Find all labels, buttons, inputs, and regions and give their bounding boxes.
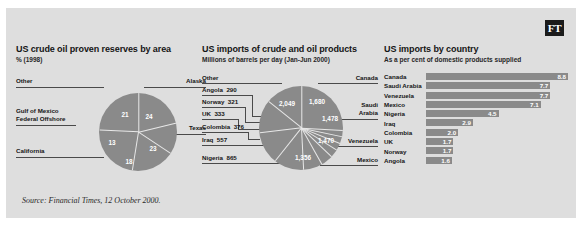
chart2-callout-mexico: Mexico xyxy=(357,156,378,163)
chart2-callout-colombia-label: Colombia xyxy=(202,123,230,130)
bar-track-saudi-arabia: 7.7 xyxy=(426,81,568,90)
chart2-value-venezuela: 1,470 xyxy=(318,137,334,144)
chart2-subtitle: Millions of barrels per day (Jan-Jun 200… xyxy=(202,56,378,63)
bar-value-nigeria: 4.5 xyxy=(488,110,499,117)
bar-track-nigeria: 4.5 xyxy=(426,109,568,118)
chart3-subtitle: As a per cent of domestic products suppl… xyxy=(384,56,568,63)
chart2-callout-canada: Canada xyxy=(356,74,378,81)
bar-value-uk: 1.7 xyxy=(443,138,454,145)
chart2-slice-divider-canada-start xyxy=(301,86,302,128)
bar-value-angola: 1.6 xyxy=(441,157,452,164)
chart1-callout-rule-gulf xyxy=(16,125,76,126)
chart2-callout-nigeria: Nigeria 865 xyxy=(202,154,237,161)
bar-label-nigeria: Nigeria xyxy=(384,110,426,117)
bar-track-canada: 8.8 xyxy=(426,72,568,81)
chart1-value-texas: 23 xyxy=(149,145,156,152)
bar-value-canada: 8.8 xyxy=(557,73,568,80)
bar-value-venezuela: 7.7 xyxy=(540,92,551,99)
chart2-callout-iraq-value: 557 xyxy=(217,136,227,143)
chart1-value-california: 18 xyxy=(125,158,132,165)
bar-track-norway: 1.7 xyxy=(426,146,568,155)
chart2-callout-other: Other xyxy=(202,74,219,81)
ft-logo: FT xyxy=(545,20,564,36)
bar-norway: 1.7 xyxy=(426,147,453,154)
chart2-title: US imports of crude and oil products xyxy=(202,44,378,54)
chart2-callout-norway: Norway 321 xyxy=(202,98,238,105)
bar-uk: 1.7 xyxy=(426,138,453,145)
chart2-callout-angola-label: Angola xyxy=(202,86,223,93)
chart1-callout-other: Other xyxy=(16,77,33,84)
chart2-callout-elbow-norway xyxy=(245,107,246,122)
bar-colombia: 2.0 xyxy=(426,129,458,136)
bar-track-venezuela: 7.7 xyxy=(426,91,568,100)
bar-mexico: 7.1 xyxy=(426,101,541,108)
chart1-slice-divider-1 xyxy=(100,130,139,133)
chart2-callout-uk: UK 333 xyxy=(202,110,225,117)
chart2-callout-elbow-colombia xyxy=(248,132,249,139)
chart1-value-other: 21 xyxy=(121,111,128,118)
chart1-title: US crude oil proven reserves by area xyxy=(16,44,206,54)
chart2-callout-rule-other xyxy=(202,83,282,84)
chart1-callout-rule-alaska xyxy=(144,87,206,88)
chart2-callout-elbow-angola xyxy=(252,95,253,116)
chart2-callout-saudi-line2: Arabia xyxy=(359,109,378,116)
chart2-callout-nigeria-label: Nigeria xyxy=(202,154,223,161)
chart1-slice-divider-2 xyxy=(132,132,139,171)
bar-label-mexico: Mexico xyxy=(384,101,426,108)
bar-row: UK 1.7 xyxy=(384,137,568,146)
chart2-callout-venezuela: Venezuela xyxy=(348,137,378,144)
chart2-callout-uk-label: UK xyxy=(202,110,211,117)
chart2-callout-iraq: Iraq 557 xyxy=(202,136,227,143)
bar-row: Mexico 7.1 xyxy=(384,100,568,109)
bar-label-uk: UK xyxy=(384,138,426,145)
chart-panel-crude-oil-reserves: US crude oil proven reserves by area % (… xyxy=(16,44,206,184)
bar-iraq: 2.9 xyxy=(426,119,473,126)
chart2-value-canada: 1,680 xyxy=(309,98,325,105)
bar-value-iraq: 2.9 xyxy=(462,119,473,126)
bar-label-iraq: Iraq xyxy=(384,120,426,127)
bar-label-colombia: Colombia xyxy=(384,129,426,136)
chart1-callout-gulf-line1: Gulf of Mexico xyxy=(16,107,59,114)
chart3-title: US imports by country xyxy=(384,44,568,54)
chart2-callout-rule-colombia xyxy=(202,132,248,133)
chart2-value-saudi: 1,478 xyxy=(322,115,338,122)
chart1-slice-divider-0 xyxy=(138,93,139,132)
bar-canada: 8.8 xyxy=(426,73,568,80)
chart1-callout-california: California xyxy=(16,147,45,154)
bar-value-saudi-arabia: 7.7 xyxy=(540,82,551,89)
bar-track-angola: 1.6 xyxy=(426,156,568,165)
bar-label-venezuela: Venezuela xyxy=(384,92,426,99)
bar-value-mexico: 7.1 xyxy=(530,101,541,108)
bar-saudi-arabia: 7.7 xyxy=(426,82,550,89)
chart1-callout-rule-california xyxy=(16,157,104,158)
chart-panel-imports-by-country: US imports by country As a per cent of d… xyxy=(384,44,568,184)
chart2-callout-rule-nigeria xyxy=(202,163,280,164)
bar-row: Angola 1.6 xyxy=(384,156,568,165)
bar-label-angola: Angola xyxy=(384,157,426,164)
bar-label-canada: Canada xyxy=(384,73,426,80)
chart2-callout-colombia: Colombia 376 xyxy=(202,123,244,130)
chart2-callout-rule-norway xyxy=(202,107,245,108)
chart2-value-mexico: 1,356 xyxy=(295,154,311,161)
chart2-callout-angola-value: 290 xyxy=(226,86,236,93)
bar-row: Colombia 2.0 xyxy=(384,128,568,137)
bar-row: Venezuela 7.7 xyxy=(384,91,568,100)
chart2-callout-angola: Angola 290 xyxy=(202,86,237,93)
chart1-pie xyxy=(99,93,177,171)
chart2-callout-rule-angola xyxy=(202,95,252,96)
chart2-value-other: 2,049 xyxy=(279,100,295,107)
bar-row: Iraq 2.9 xyxy=(384,118,568,127)
chart1-callout-rule-other xyxy=(16,87,104,88)
bar-value-norway: 1.7 xyxy=(443,147,454,154)
source-note: Source: Financial Times, 12 October 2000… xyxy=(22,196,161,205)
bar-label-saudi-arabia: Saudi Arabia xyxy=(384,82,426,89)
chart2-callout-rule-canada xyxy=(318,83,378,84)
bar-track-colombia: 2.0 xyxy=(426,128,568,137)
chart2-callout-rule-uk xyxy=(202,119,238,120)
bar-row: Canada 8.8 xyxy=(384,72,568,81)
bar-track-mexico: 7.1 xyxy=(426,100,568,109)
ft-figure-panel: FT US crude oil proven reserves by area … xyxy=(6,8,576,218)
bar-nigeria: 4.5 xyxy=(426,110,499,117)
chart2-callout-uk-value: 333 xyxy=(214,110,224,117)
bar-track-uk: 1.7 xyxy=(426,137,568,146)
